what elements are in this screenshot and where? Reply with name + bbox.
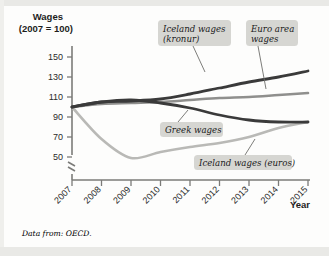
callout-label-iceland-kronur-line2: (kronur) — [163, 34, 199, 44]
data-series-group — [72, 71, 308, 158]
y-axis-title-line1: Wages — [33, 11, 63, 22]
x-tick-label-2014: 2014 — [259, 184, 280, 205]
x-tick-label-2009: 2009 — [111, 184, 132, 205]
x-axis-ticks: 200720082009201020112012201320142015 — [52, 180, 309, 206]
y-axis-title-line2: (2007 = 100) — [19, 23, 73, 34]
x-axis-title: Year — [290, 199, 310, 210]
callout-label-euro-area-line2: wages — [251, 34, 279, 44]
leader-line-iceland-euros — [245, 139, 255, 155]
y-tick-label-70: 70 — [53, 132, 63, 142]
x-tick-label-2013: 2013 — [229, 184, 250, 205]
x-tick-label-2008: 2008 — [82, 184, 103, 205]
x-tick-label-2012: 2012 — [200, 184, 221, 205]
line-chart-plot: Wages (2007 = 100) 507090110130150 20072… — [0, 0, 329, 256]
source-note-wrap: Data from: OECD. — [22, 222, 92, 240]
callout-label-iceland-euros: Iceland wages (euros) — [198, 158, 295, 168]
callout-label-euro-area: Euro area — [250, 24, 294, 34]
y-tick-label-90: 90 — [53, 112, 63, 122]
y-tick-label-130: 130 — [48, 72, 63, 82]
callout-label-iceland-kronur: Iceland wages — [162, 24, 226, 34]
x-tick-label-2010: 2010 — [141, 184, 162, 205]
leader-line-iceland-kronur — [193, 46, 205, 72]
y-tick-label-150: 150 — [48, 52, 63, 62]
source-note: Data from: OECD. — [22, 229, 92, 238]
callout-label-greek: Greek wages — [165, 125, 222, 135]
y-axis-ticks: 507090110130150 — [48, 52, 72, 162]
leader-line-euro-area — [258, 46, 266, 89]
x-tick-label-2011: 2011 — [171, 184, 192, 205]
y-tick-label-110: 110 — [49, 92, 63, 102]
x-tick-label-2007: 2007 — [52, 184, 73, 205]
leader-line-greek — [178, 110, 188, 122]
y-tick-label-50: 50 — [53, 152, 63, 162]
chart-figure: Wages (2007 = 100) 507090110130150 20072… — [0, 0, 329, 256]
series-line-iceland-wages-kronur — [72, 71, 308, 107]
callout-iceland-kronur: Iceland wages(kronur) — [158, 20, 231, 72]
